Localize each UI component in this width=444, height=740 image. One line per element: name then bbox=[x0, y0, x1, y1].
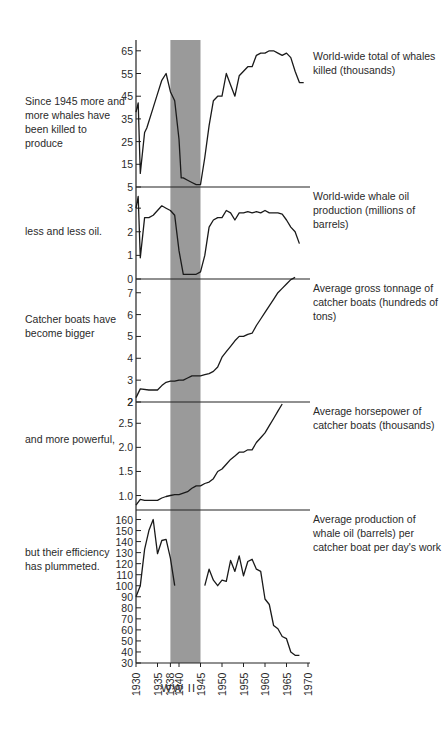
y-tick-label: 160 bbox=[115, 514, 133, 526]
series-line-oil_per_boat_day bbox=[205, 556, 300, 655]
y-tick-label: 140 bbox=[115, 536, 133, 548]
y-tick-label: 60 bbox=[121, 624, 133, 636]
y-tick-label: 5 bbox=[127, 181, 133, 193]
y-tick-label: 5 bbox=[127, 330, 133, 342]
y-tick-label: 70 bbox=[121, 613, 133, 625]
y-tick-label: 120 bbox=[115, 558, 133, 570]
y-tick-label: 1 bbox=[127, 249, 133, 261]
y-tick-label: 1.5 bbox=[118, 465, 133, 477]
y-tick-label: 45 bbox=[121, 90, 133, 102]
x-tick-label: 1950 bbox=[216, 672, 228, 696]
y-tick-label: 55 bbox=[121, 68, 133, 80]
series-line-oil_production bbox=[136, 196, 299, 274]
x-tick-label: 1965 bbox=[281, 672, 293, 696]
y-tick-label: 2 bbox=[127, 396, 133, 408]
ww2-shaded-band bbox=[170, 40, 200, 663]
x-tick-label: 1955 bbox=[238, 672, 250, 696]
y-tick-label: 2.0 bbox=[118, 441, 133, 453]
x-tick-label: 1945 bbox=[195, 672, 207, 696]
y-tick-label: 3 bbox=[127, 374, 133, 386]
y-tick-label: 3 bbox=[127, 202, 133, 214]
y-tick-label: 90 bbox=[121, 591, 133, 603]
x-tick-label: 1960 bbox=[259, 672, 271, 696]
y-tick-label: 65 bbox=[121, 45, 133, 57]
series-line-horsepower bbox=[136, 404, 282, 505]
y-tick-label: 2.5 bbox=[118, 417, 133, 429]
series-line-whales_killed bbox=[136, 51, 304, 185]
y-tick-label: 110 bbox=[116, 569, 133, 581]
y-tick-label: 25 bbox=[121, 136, 133, 148]
y-tick-label: 35 bbox=[121, 113, 133, 125]
y-tick-label: 80 bbox=[121, 602, 133, 614]
y-tick-label: 0 bbox=[127, 273, 133, 285]
chart-area: 515253545556501232345671.01.52.02.523040… bbox=[0, 0, 444, 740]
series-line-oil_per_boat_day bbox=[136, 520, 175, 597]
y-tick-label: 40 bbox=[121, 646, 133, 658]
y-tick-label: 4 bbox=[127, 352, 133, 364]
y-tick-label: 1.0 bbox=[118, 490, 133, 502]
y-tick-label: 7 bbox=[127, 287, 133, 299]
y-tick-label: 50 bbox=[121, 635, 133, 647]
y-tick-label: 130 bbox=[115, 547, 133, 559]
y-tick-label: 100 bbox=[115, 580, 133, 592]
ww2-label: WW II bbox=[161, 682, 196, 694]
y-tick-label: 2 bbox=[127, 226, 133, 238]
y-tick-label: 30 bbox=[121, 657, 133, 669]
y-tick-label: 150 bbox=[115, 525, 133, 537]
y-tick-label: 6 bbox=[127, 309, 133, 321]
y-tick-label: 15 bbox=[121, 158, 133, 170]
series-line-gross_tonnage bbox=[136, 277, 295, 397]
x-tick-label: 1970 bbox=[302, 672, 314, 696]
x-tick-label: 1930 bbox=[130, 672, 142, 696]
